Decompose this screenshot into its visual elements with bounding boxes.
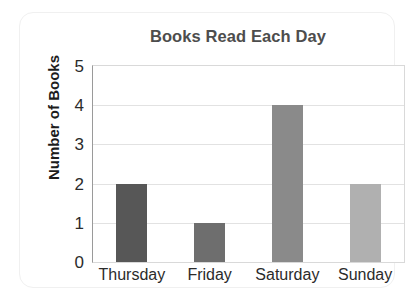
y-axis-tick-label: 1 bbox=[75, 214, 84, 231]
bar-slot: Thursday bbox=[93, 66, 171, 262]
bar-slot: Friday bbox=[171, 66, 249, 262]
x-axis-tick-label: Saturday bbox=[255, 266, 319, 284]
y-axis-tick-label: 2 bbox=[75, 175, 84, 192]
x-axis-tick-label: Friday bbox=[187, 266, 231, 284]
bar-series: ThursdayFridaySaturdaySunday bbox=[93, 66, 404, 262]
y-axis-tick-label: 0 bbox=[75, 254, 84, 271]
chart-title: Books Read Each Day bbox=[80, 27, 396, 46]
chart-card: Books Read Each Day Number of Books 0123… bbox=[19, 12, 395, 288]
bar-slot: Saturday bbox=[249, 66, 327, 262]
bar[interactable] bbox=[272, 105, 303, 262]
bar[interactable] bbox=[350, 184, 381, 262]
bar[interactable] bbox=[194, 223, 225, 262]
y-axis-tick-label: 5 bbox=[75, 58, 84, 75]
y-axis-title: Number of Books bbox=[45, 43, 62, 193]
y-axis-tick-label: 4 bbox=[75, 97, 84, 114]
x-axis-tick-label: Thursday bbox=[99, 266, 166, 284]
bar[interactable] bbox=[116, 184, 147, 262]
plot-wrap: 012345 ThursdayFridaySaturdaySunday bbox=[92, 65, 405, 263]
y-axis-tick-label: 3 bbox=[75, 136, 84, 153]
x-axis-tick-label: Sunday bbox=[338, 266, 392, 284]
plot-area: 012345 ThursdayFridaySaturdaySunday bbox=[92, 65, 405, 263]
bar-slot: Sunday bbox=[326, 66, 404, 262]
